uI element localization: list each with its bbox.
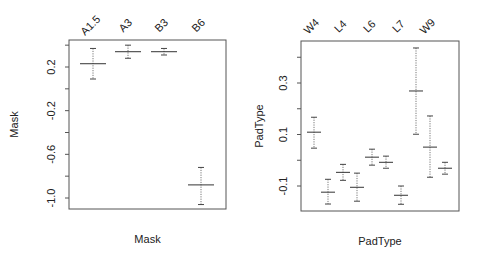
- y-tick-label: -0.2: [45, 101, 57, 120]
- error-bar: [188, 167, 214, 204]
- mask-panel: 0.2-0.2-0.6-1.0A1.5A3B3B6MaskMask: [8, 13, 226, 245]
- x-tick-label: B6: [189, 16, 207, 34]
- x-tick-label: A1.5: [78, 13, 102, 37]
- x-axis-title: PadType: [358, 235, 401, 247]
- chart-canvas: 0.2-0.2-0.6-1.0A1.5A3B3B6MaskMask 0.30.1…: [0, 0, 484, 265]
- error-bar: [409, 48, 423, 134]
- chart-figure: 0.2-0.2-0.6-1.0A1.5A3B3B6MaskMask 0.30.1…: [0, 0, 484, 265]
- y-tick-label: 0.2: [45, 59, 57, 74]
- error-bar: [350, 173, 364, 201]
- error-bar: [321, 179, 335, 204]
- x-tick-label: A3: [116, 16, 134, 34]
- x-axis-title: Mask: [134, 233, 161, 245]
- error-bar: [80, 48, 106, 79]
- error-bar: [365, 149, 379, 165]
- error-bar: [423, 116, 437, 177]
- y-tick-label: -0.1: [277, 177, 289, 196]
- plot-frame: [301, 41, 459, 211]
- y-tick-label: 0.3: [277, 75, 289, 90]
- error-bar: [394, 186, 408, 204]
- error-bar: [115, 45, 141, 58]
- y-axis-title: PadType: [253, 104, 265, 147]
- error-bar: [336, 164, 350, 180]
- error-bar: [438, 162, 452, 174]
- x-tick-label: B3: [152, 16, 170, 34]
- x-tick-label: W9: [417, 16, 437, 36]
- y-tick-label: -0.6: [45, 145, 57, 164]
- x-tick-label: L6: [361, 18, 378, 35]
- y-axis-title: Mask: [8, 111, 20, 138]
- x-tick-label: L7: [390, 18, 407, 35]
- x-tick-label: L4: [332, 18, 349, 35]
- y-tick-label: -1.0: [45, 189, 57, 208]
- y-tick-label: 0.1: [277, 127, 289, 142]
- error-bar: [379, 156, 393, 168]
- error-bar: [307, 117, 321, 148]
- error-bar: [151, 48, 177, 55]
- x-tick-label: W4: [301, 16, 321, 36]
- padtype-panel: 0.30.1-0.1W4L4L6L7W9PadTypePadType: [253, 16, 459, 247]
